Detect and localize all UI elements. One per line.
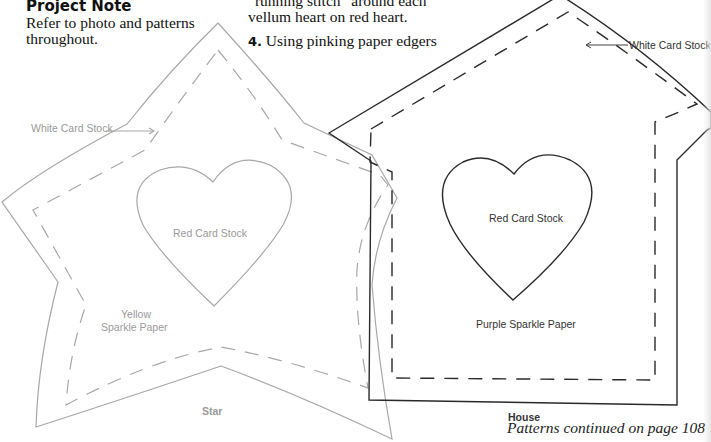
house-pattern xyxy=(329,0,711,405)
star-body-label-1: Yellow xyxy=(121,308,151,320)
star-body-label-2: Sparkle Paper xyxy=(101,321,168,333)
star-outer-label: White Card Stock xyxy=(31,122,113,134)
house-outer-label: White Card Stock xyxy=(629,39,711,51)
star-title: Star xyxy=(202,405,222,417)
house-body-label: Purple Sparkle Paper xyxy=(476,318,576,330)
house-heart-label: Red Card Stock xyxy=(489,212,563,224)
star-heart-label: Red Card Stock xyxy=(173,227,247,239)
house-outline xyxy=(329,0,711,405)
page-edge-shadow xyxy=(703,0,711,442)
house-heart xyxy=(442,155,591,300)
patterns-continued-note: Patterns continued on page 108 xyxy=(507,419,705,437)
pattern-artwork xyxy=(0,0,711,442)
